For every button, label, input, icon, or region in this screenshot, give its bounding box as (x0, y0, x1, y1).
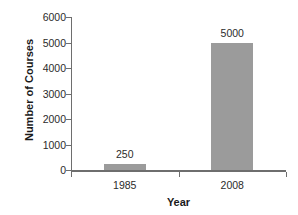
bar-value-label: 250 (95, 149, 155, 160)
y-tick-label: 1000 (26, 140, 66, 151)
y-tick-label: 2000 (26, 114, 66, 125)
x-tick-mark (179, 172, 180, 177)
y-tick-label: 4000 (26, 63, 66, 74)
x-axis-category-label: 2008 (202, 180, 262, 191)
x-tick-mark (71, 172, 72, 177)
x-axis-line (71, 170, 286, 172)
y-tick-label: 0 (26, 165, 66, 176)
y-tick-label: 3000 (26, 89, 66, 100)
x-axis-title: Year (71, 196, 286, 208)
y-tick-label: 6000 (26, 12, 66, 23)
bar (211, 43, 253, 171)
x-tick-mark (286, 172, 287, 177)
bar (104, 164, 146, 170)
y-axis-tick-labels: 6000 5000 4000 3000 2000 1000 0 (26, 0, 66, 215)
bar-value-label: 5000 (202, 28, 262, 39)
y-tick-label: 5000 (26, 38, 66, 49)
plot-area (71, 17, 286, 170)
bar-chart: Number of Courses 6000 5000 4000 3000 20… (0, 0, 298, 215)
x-axis-category-label: 1985 (95, 180, 155, 191)
